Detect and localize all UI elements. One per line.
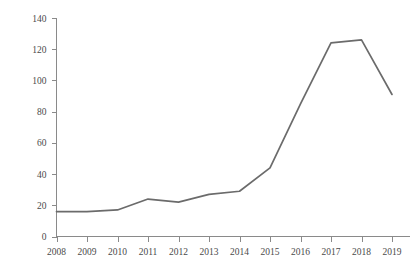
y-tick-group — [52, 19, 57, 238]
x-tick-label: 2016 — [291, 247, 310, 257]
data-series-line — [57, 40, 393, 212]
x-tick-label: 2009 — [78, 247, 97, 257]
x-tick-group — [58, 237, 393, 242]
y-tick-label: 40 — [37, 170, 47, 180]
x-axis-group — [57, 237, 411, 242]
y-tick-label-group: 020406080100120140 — [32, 14, 47, 243]
y-tick-label: 140 — [32, 14, 47, 24]
x-tick-label: 2012 — [169, 247, 188, 257]
x-tick-label-group: 2008200920102011201220132014201520162017… — [47, 247, 402, 257]
line-chart: 020406080100120140 200820092010201120122… — [0, 0, 419, 267]
y-axis-group — [52, 18, 57, 238]
x-tick-label: 2011 — [139, 247, 158, 257]
series-group — [57, 40, 393, 212]
x-tick-label: 2014 — [230, 247, 249, 257]
y-tick-label: 100 — [32, 76, 47, 86]
x-tick-label: 2010 — [108, 247, 127, 257]
x-tick-label: 2019 — [383, 247, 402, 257]
x-tick-label: 2008 — [47, 247, 66, 257]
y-tick-label: 20 — [37, 201, 47, 211]
x-tick-label: 2015 — [261, 247, 280, 257]
x-tick-label: 2013 — [200, 247, 219, 257]
x-tick-label: 2017 — [322, 247, 341, 257]
chart-plot-area: 020406080100120140 200820092010201120122… — [0, 0, 419, 267]
x-tick-label: 2018 — [352, 247, 371, 257]
y-tick-label: 80 — [37, 107, 47, 117]
y-tick-label: 60 — [37, 138, 47, 148]
y-tick-label: 0 — [42, 232, 47, 242]
y-tick-label: 120 — [32, 45, 47, 55]
